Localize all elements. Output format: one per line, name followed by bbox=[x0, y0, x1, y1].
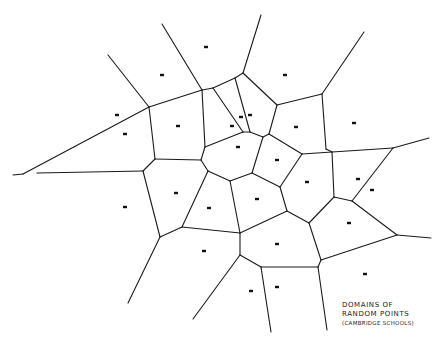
random-point bbox=[305, 181, 309, 183]
caption-line-3: (CAMBRIDGE SCHOOLS) bbox=[342, 319, 414, 328]
domain-edge bbox=[162, 24, 202, 90]
domain-edge bbox=[243, 73, 277, 105]
domain-edge bbox=[318, 260, 321, 267]
random-point bbox=[123, 133, 127, 135]
domain-edge bbox=[208, 171, 230, 181]
random-point bbox=[174, 192, 178, 194]
random-point bbox=[202, 250, 206, 252]
domain-edge bbox=[287, 211, 309, 223]
domain-edge bbox=[193, 255, 240, 319]
domain-edge bbox=[277, 94, 322, 105]
random-point bbox=[236, 146, 240, 148]
random-point bbox=[294, 126, 298, 128]
domain-edge bbox=[280, 154, 302, 187]
domain-edge bbox=[205, 132, 243, 147]
domain-edge bbox=[326, 149, 332, 152]
caption-line-1: DOMAINS OF bbox=[342, 301, 414, 310]
domain-edge bbox=[269, 134, 302, 154]
domain-edge bbox=[213, 78, 235, 88]
domain-edge bbox=[243, 15, 261, 73]
random-point bbox=[356, 178, 360, 180]
random-point bbox=[123, 206, 127, 208]
domain-edge bbox=[240, 255, 261, 267]
domain-edge bbox=[128, 237, 160, 303]
domain-edge bbox=[280, 187, 287, 211]
random-point bbox=[275, 159, 279, 161]
domain-edge bbox=[201, 160, 208, 171]
domain-edge bbox=[182, 227, 240, 233]
domain-edge bbox=[318, 267, 327, 330]
domain-edge bbox=[309, 223, 321, 260]
random-point bbox=[239, 116, 243, 118]
domain-edge bbox=[143, 159, 155, 171]
domain-edge bbox=[202, 90, 205, 147]
random-point bbox=[230, 125, 234, 127]
domain-edge bbox=[332, 148, 393, 152]
domain-edge bbox=[309, 197, 334, 223]
random-point bbox=[160, 74, 164, 76]
domain-edge bbox=[37, 171, 143, 173]
random-point bbox=[255, 198, 259, 200]
domain-edge bbox=[230, 181, 240, 233]
domain-edge bbox=[252, 137, 263, 173]
caption-line-2: RANDOM POINTS bbox=[342, 310, 414, 319]
domain-edge bbox=[213, 88, 243, 132]
domain-edge bbox=[332, 152, 334, 197]
random-point bbox=[352, 122, 356, 124]
domain-edge bbox=[108, 55, 149, 107]
domain-edge bbox=[252, 173, 280, 187]
diagram-caption: DOMAINS OF RANDOM POINTS (CAMBRIDGE SCHO… bbox=[342, 301, 414, 328]
domain-edge bbox=[302, 152, 332, 154]
domain-edge bbox=[202, 88, 213, 90]
random-point bbox=[248, 114, 252, 116]
domain-edge bbox=[269, 105, 277, 134]
domain-edge bbox=[240, 211, 287, 233]
random-point bbox=[275, 243, 279, 245]
domain-edge bbox=[397, 235, 431, 238]
domain-edge bbox=[23, 107, 149, 174]
domain-edge bbox=[352, 201, 397, 235]
random-point bbox=[204, 46, 208, 48]
domain-edge bbox=[149, 90, 202, 107]
random-point bbox=[249, 290, 253, 292]
domain-edge bbox=[201, 147, 205, 160]
domain-edge bbox=[182, 171, 208, 227]
domain-edge bbox=[230, 173, 252, 181]
domain-edge bbox=[352, 148, 393, 201]
random-point bbox=[207, 207, 211, 209]
random-point bbox=[370, 189, 374, 191]
domain-edge bbox=[155, 159, 201, 160]
domain-edge bbox=[334, 197, 352, 201]
random-point bbox=[115, 114, 119, 116]
domain-edge bbox=[261, 267, 271, 332]
domain-edge bbox=[250, 132, 263, 137]
random-point bbox=[283, 74, 287, 76]
domain-edge bbox=[235, 73, 243, 78]
domain-boundaries bbox=[13, 15, 431, 332]
domain-edge bbox=[263, 134, 269, 137]
domain-edge bbox=[149, 107, 155, 159]
domain-edge bbox=[160, 227, 182, 237]
random-point bbox=[363, 273, 367, 275]
voronoi-diagram bbox=[0, 0, 442, 345]
domain-edge bbox=[393, 138, 429, 148]
domain-edge bbox=[321, 235, 397, 260]
random-point bbox=[347, 222, 351, 224]
domain-edge bbox=[322, 94, 326, 149]
random-point bbox=[275, 286, 279, 288]
domain-edge bbox=[322, 32, 364, 94]
domain-edge bbox=[143, 171, 160, 237]
random-point bbox=[176, 125, 180, 127]
domain-edge bbox=[13, 174, 23, 175]
